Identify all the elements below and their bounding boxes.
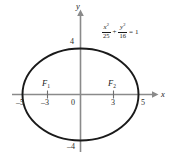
y-axis-label: y (76, 2, 80, 11)
x-tick-label-pos3: 3 (111, 99, 115, 107)
y-tick-label-pos4: 4 (70, 38, 74, 46)
x-axis-arrowhead (152, 91, 159, 98)
x-tick-label-neg3: –3 (41, 99, 49, 107)
equation-term-1-numerator: x2 (103, 24, 110, 32)
focus-label-f2: F2 (108, 79, 116, 88)
focus-f2-index: 2 (113, 83, 116, 89)
equation-term-2-denominator: 16 (118, 33, 127, 40)
equation-term-2: y2 16 (118, 24, 127, 40)
x-tick-label-neg5: –5 (16, 99, 24, 107)
equation-operator: + (113, 28, 117, 36)
x-axis-label: x (161, 90, 165, 99)
equation-term-2-exponent: 2 (123, 22, 125, 27)
focus-f1-index: 1 (47, 83, 50, 89)
x-tick-label-pos5: 5 (141, 99, 145, 107)
ellipse-figure: x y 0 –5 –3 3 5 4 –4 F1 F2 x2 25 + y2 16… (0, 0, 170, 163)
y-tick-label-neg4: –4 (67, 143, 75, 151)
equation-term-1-denominator: 25 (102, 33, 111, 40)
ellipse-equation: x2 25 + y2 16 = 1 (101, 24, 138, 40)
equation-term-2-numerator: y2 (119, 24, 126, 32)
origin-label: 0 (71, 99, 75, 107)
focus-label-f1: F1 (42, 79, 50, 88)
equation-term-1: x2 25 (102, 24, 111, 40)
graph-canvas (0, 0, 170, 163)
equation-term-1-exponent: 2 (107, 22, 109, 27)
equation-right-side: 1 (135, 28, 139, 36)
equation-equals-sign: = (129, 28, 133, 36)
